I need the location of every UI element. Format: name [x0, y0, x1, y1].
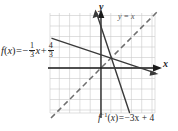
function-f-inverse-label: f−1(x)=−3x + 4 [98, 114, 154, 124]
f-label-slope-fraction: 13 [29, 42, 35, 60]
f-label-minus: − [23, 46, 29, 57]
x-axis [48, 65, 162, 72]
f-label-plus: + [40, 46, 47, 57]
function-f-label: f(x)=−13x+43 [1, 42, 54, 60]
f-line-arrow-icon [150, 70, 159, 75]
grid-lines [50, 13, 155, 113]
finv-label-exponent: −1 [101, 111, 108, 118]
identity-line-label: y = x [118, 13, 135, 21]
y-axis-label: y [99, 2, 103, 12]
x-axis-label: x [163, 59, 168, 69]
f-label-slope-denominator: 3 [29, 51, 35, 60]
f-label-intercept-denominator: 3 [48, 51, 54, 60]
f-label-equals: = [16, 46, 23, 57]
f-label-intercept-fraction: 43 [48, 42, 54, 60]
function-line-f [52, 38, 159, 76]
graph-figure: y x y = x f(x)=−13x+43 f−1(x)=−3x + 4 [0, 0, 178, 131]
x-axis-arrow-icon [153, 65, 162, 72]
coordinate-plane [0, 0, 178, 131]
finv-label-rhs: −3x + 4 [124, 113, 154, 123]
